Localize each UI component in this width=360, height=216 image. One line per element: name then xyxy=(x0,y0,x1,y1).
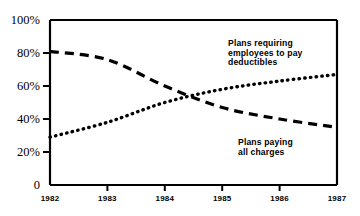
chart-background xyxy=(0,0,360,216)
y-axis-label-20: 20% xyxy=(17,145,40,159)
x-axis-label-1987: 1987 xyxy=(328,194,347,203)
chart-container: 100% 80% 60% 40% 20% 0 1982 1983 1984 19… xyxy=(0,0,360,216)
x-axis-label-1982: 1982 xyxy=(41,194,60,203)
x-axis-label-1986: 1986 xyxy=(270,194,289,203)
x-axis-label-1983: 1983 xyxy=(98,194,117,203)
annotation-all-charges-line1: Plans paying xyxy=(238,137,293,147)
annotation-deductibles-line2: employees to pay xyxy=(228,48,303,58)
y-axis-label-0: 0 xyxy=(34,178,40,192)
annotation-all-charges-line2: all charges xyxy=(238,147,285,157)
x-axis-label-1985: 1985 xyxy=(213,194,232,203)
annotation-deductibles-line1: Plans requiring xyxy=(228,38,293,48)
y-axis-label-40: 40% xyxy=(17,112,40,126)
annotation-deductibles-line3: deductibles xyxy=(228,57,277,67)
y-axis-label-80: 80% xyxy=(17,46,40,60)
y-axis-label-60: 60% xyxy=(17,79,40,93)
x-axis-label-1984: 1984 xyxy=(155,194,174,203)
line-chart: 100% 80% 60% 40% 20% 0 1982 1983 1984 19… xyxy=(0,0,360,216)
y-axis-label-100: 100% xyxy=(11,13,40,27)
